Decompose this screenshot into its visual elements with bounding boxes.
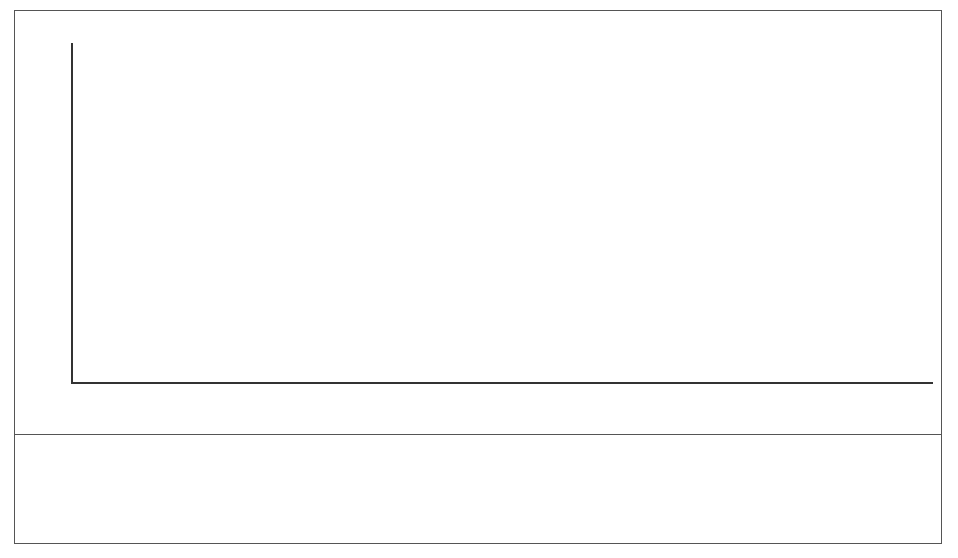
y-axis-line bbox=[71, 43, 73, 383]
plot-area bbox=[15, 11, 941, 435]
x-axis-line bbox=[71, 382, 933, 384]
chart-legend bbox=[15, 435, 941, 491]
chart-figure bbox=[14, 10, 942, 544]
